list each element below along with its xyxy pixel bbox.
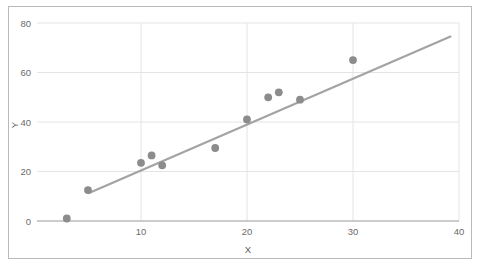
- y-axis-ticks: 80 60 40 20 0: [20, 18, 31, 227]
- data-point: [158, 161, 166, 169]
- y-tick-label-0: 0: [26, 216, 31, 227]
- data-points: [63, 56, 357, 222]
- chart-container: 80 60 40 20 0 10 20 30 40 Y X: [8, 6, 472, 259]
- x-tick-label-30: 30: [348, 226, 359, 237]
- data-point: [264, 93, 272, 101]
- scatter-chart-svg: 80 60 40 20 0 10 20 30 40 Y X: [9, 7, 471, 258]
- data-point: [148, 152, 156, 160]
- x-axis-ticks: 10 20 30 40: [136, 226, 465, 237]
- y-tick-label-60: 60: [20, 67, 31, 78]
- data-point: [211, 144, 219, 152]
- y-tick-label-40: 40: [20, 117, 31, 128]
- data-point: [84, 186, 92, 194]
- y-tick-label-20: 20: [20, 166, 31, 177]
- y-axis-title: Y: [9, 121, 20, 128]
- x-tick-label-40: 40: [454, 226, 465, 237]
- x-tick-label-20: 20: [242, 226, 253, 237]
- data-point: [243, 116, 251, 124]
- trendline: [89, 37, 451, 193]
- plot-area: 80 60 40 20 0 10 20 30 40 Y X: [9, 7, 471, 258]
- data-point: [275, 88, 283, 96]
- data-point: [296, 96, 304, 104]
- x-axis-title: X: [245, 244, 252, 255]
- y-tick-label-80: 80: [20, 18, 31, 29]
- gridlines-horizontal: [37, 23, 459, 172]
- data-point: [137, 159, 145, 167]
- x-tick-label-10: 10: [136, 226, 147, 237]
- data-point: [63, 215, 71, 223]
- data-point: [349, 56, 357, 64]
